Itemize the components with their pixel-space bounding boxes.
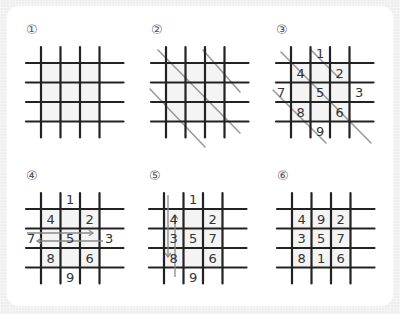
grid-digit: 6 xyxy=(337,251,345,266)
grid-digit: 1 xyxy=(317,251,325,266)
grid-digit: 9 xyxy=(317,212,325,227)
step-label: ⑥ xyxy=(277,169,289,182)
grid-digit: 2 xyxy=(337,212,345,227)
grid-digit: 3 xyxy=(298,231,306,246)
grid-digit: 5 xyxy=(317,231,325,246)
grid-drawing: 492357816 xyxy=(0,0,400,314)
step-panel-6: 492357816⑥ xyxy=(0,0,400,314)
grid-digit: 4 xyxy=(298,212,306,227)
grid-digit: 7 xyxy=(337,231,345,246)
grid-digit: 8 xyxy=(298,251,306,266)
